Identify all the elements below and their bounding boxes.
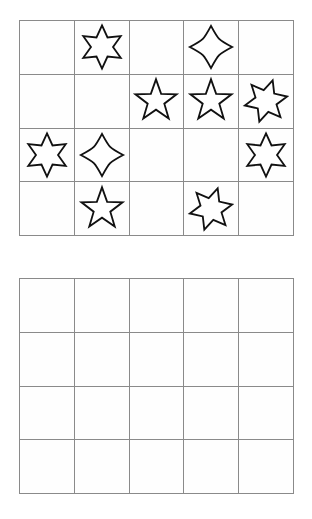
star-5-icon [188,78,234,124]
star-5-icon [79,186,125,232]
grid-cell[interactable] [130,129,185,183]
grid-cell[interactable] [239,129,294,183]
puzzle-root [0,0,312,519]
top-grid [19,20,294,236]
grid-cell[interactable] [130,387,185,441]
grid-cell[interactable] [239,333,294,387]
bottom-grid [19,278,294,494]
grid-cell[interactable] [20,129,75,183]
grid-cell[interactable] [20,333,75,387]
grid-cell[interactable] [75,75,130,129]
grid-cell[interactable] [75,387,130,441]
grid-cell[interactable] [20,387,75,441]
grid-cell[interactable] [184,333,239,387]
grid-cell[interactable] [184,279,239,333]
grid-cell[interactable] [75,21,130,75]
grid-cell[interactable] [75,182,130,236]
star-6-icon [24,132,70,178]
grid-cell[interactable] [184,21,239,75]
grid-cell[interactable] [130,182,185,236]
grid-cell[interactable] [130,279,185,333]
grid-cell[interactable] [130,75,185,129]
star-4-icon [79,132,125,178]
grid-cell[interactable] [239,279,294,333]
grid-cell[interactable] [20,440,75,494]
grid-cell[interactable] [130,440,185,494]
grid-cell[interactable] [75,440,130,494]
grid-cell[interactable] [184,440,239,494]
grid-cell[interactable] [130,333,185,387]
grid-cell[interactable] [239,387,294,441]
star-4-icon [188,24,234,70]
grid-cell[interactable] [184,75,239,129]
star-6-icon [79,24,125,70]
star-6-icon [243,78,289,124]
star-5-icon [133,78,179,124]
grid-cell[interactable] [20,182,75,236]
star-6-icon [188,186,234,232]
grid-cell[interactable] [184,387,239,441]
grid-cell[interactable] [184,129,239,183]
grid-cell[interactable] [20,21,75,75]
star-6-icon [243,132,289,178]
grid-cell[interactable] [239,75,294,129]
grid-cell[interactable] [239,21,294,75]
grid-cell[interactable] [20,75,75,129]
grid-cell[interactable] [75,129,130,183]
grid-cell[interactable] [75,279,130,333]
grid-cell[interactable] [75,333,130,387]
grid-cell[interactable] [239,440,294,494]
grid-cell[interactable] [20,279,75,333]
grid-cell[interactable] [130,21,185,75]
grid-cell[interactable] [239,182,294,236]
grid-cell[interactable] [184,182,239,236]
